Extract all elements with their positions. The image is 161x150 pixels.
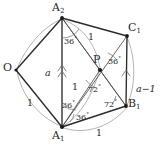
vertex-label-o: O: [3, 62, 12, 73]
vertex-label-c1-sub: 1: [136, 27, 140, 35]
vertex-label-a1-text: A: [52, 129, 60, 142]
vertex-label-b1-sub: 1: [136, 103, 140, 111]
edge-o-a2: [16, 18, 62, 70]
vertex-dot-c1: [125, 34, 129, 38]
interior-chords: [62, 18, 127, 127]
angle-label-a1-lower: 36°: [76, 112, 89, 122]
outline-edges: [16, 18, 127, 127]
length-label-a2c1: 1: [88, 32, 94, 42]
vertex-dot-p: [98, 68, 102, 72]
vertex-label-a2-text: A: [52, 1, 60, 14]
edge-a2-c1: [62, 18, 127, 36]
length-label-a1p: 1: [72, 82, 78, 92]
vertex-label-p: P: [93, 54, 100, 65]
vertex-label-b1-text: B: [128, 97, 136, 110]
vertex-dot-a1: [60, 125, 64, 129]
angle-label-a1-upper: 36°: [62, 100, 75, 110]
edge-a1-o: [16, 70, 62, 127]
angle-label-b1-upper: 72°: [104, 99, 117, 109]
arc-c1-to-b1: [127, 37, 134, 105]
geometry-figure: A2 C1 P B1 A1 O 1 1 1 1 a a−1 36° 36° 72…: [0, 0, 161, 150]
vertex-label-o-text: O: [3, 61, 12, 74]
vertex-label-a2-sub: 2: [60, 7, 64, 15]
length-label-oa2: a: [45, 68, 51, 78]
vertex-label-a2: A2: [52, 2, 64, 13]
length-label-a1b1: 1: [96, 128, 102, 138]
vertex-dot-o: [14, 68, 17, 71]
length-label-c1b1: a−1: [136, 84, 156, 94]
angle-label-p-lower: 72°: [88, 84, 101, 94]
vertex-label-b1: B1: [128, 98, 141, 109]
vertex-label-a1: A1: [52, 130, 64, 141]
length-label-oa1: 1: [27, 98, 33, 108]
vertex-label-a1-sub: 1: [60, 135, 64, 143]
angle-label-p-right: 36°: [108, 56, 121, 66]
vertex-label-c1: C1: [128, 22, 141, 33]
vertex-dot-a2: [60, 16, 64, 20]
angle-label-a2-apex: 36°: [64, 36, 77, 46]
vertex-label-p-text: P: [93, 53, 100, 66]
